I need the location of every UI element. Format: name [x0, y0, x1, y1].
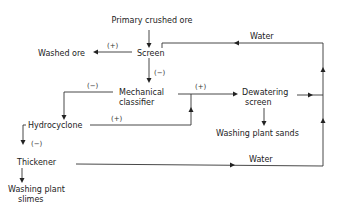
arrowhead-icon: [321, 67, 326, 72]
node-dewatering-screen-line1: Dewatering: [242, 88, 288, 97]
node-screen: Screen: [137, 49, 165, 58]
edge-hydrocyclone-to-thickener: [23, 125, 26, 142]
label-water-bottom: Water: [249, 155, 273, 164]
arrowhead-icon: [147, 43, 152, 48]
node-dewatering-screen-line2: screen: [245, 98, 272, 107]
flowsheet-diagram: Primary crushed ore Screen Washed ore Me…: [0, 0, 338, 215]
arrowhead-icon: [262, 121, 267, 126]
edge-water-to-screen: [162, 43, 323, 48]
edge-thickener-water: [76, 164, 323, 166]
node-washing-plant-sands: Washing plant sands: [216, 129, 299, 138]
arrowhead-icon: [147, 78, 152, 83]
node-washing-plant-slimes-line1: Washing plant: [8, 185, 65, 194]
label-hydrocyclone-thickener-minus: (−): [31, 140, 43, 148]
arrowhead-icon: [20, 178, 25, 183]
node-washed-ore: Washed ore: [38, 49, 85, 58]
label-screen-washed-ore-plus: (+): [107, 42, 119, 50]
arrowhead-icon: [230, 163, 235, 168]
node-primary-crushed-ore: Primary crushed ore: [112, 16, 193, 25]
label-classifier-hydrocyclone-minus: (−): [87, 82, 99, 90]
label-hydrocyclone-dewatering-plus: (+): [111, 115, 123, 123]
arrowhead-icon: [308, 93, 313, 98]
node-thickener: Thickener: [16, 158, 57, 167]
node-washing-plant-slimes-line2: slimes: [18, 195, 44, 204]
edge-classifier-to-hydrocyclone: [64, 92, 113, 117]
arrowhead-icon: [93, 50, 98, 55]
node-mechanical-classifier-line1: Mechanical: [119, 88, 164, 97]
arrowhead-icon: [62, 115, 67, 120]
label-classifier-dewatering-plus: (+): [195, 83, 207, 91]
node-mechanical-classifier-line2: classifier: [119, 98, 155, 107]
arrowhead-icon: [189, 107, 194, 112]
label-water-top: Water: [250, 32, 274, 41]
node-hydrocyclone: Hydrocyclone: [28, 121, 83, 130]
arrowhead-icon: [233, 92, 238, 97]
arrowhead-icon: [21, 140, 26, 145]
arrowhead-icon: [234, 41, 239, 46]
arrowhead-icon: [321, 118, 326, 123]
label-screen-classifier-minus: (−): [154, 69, 166, 77]
